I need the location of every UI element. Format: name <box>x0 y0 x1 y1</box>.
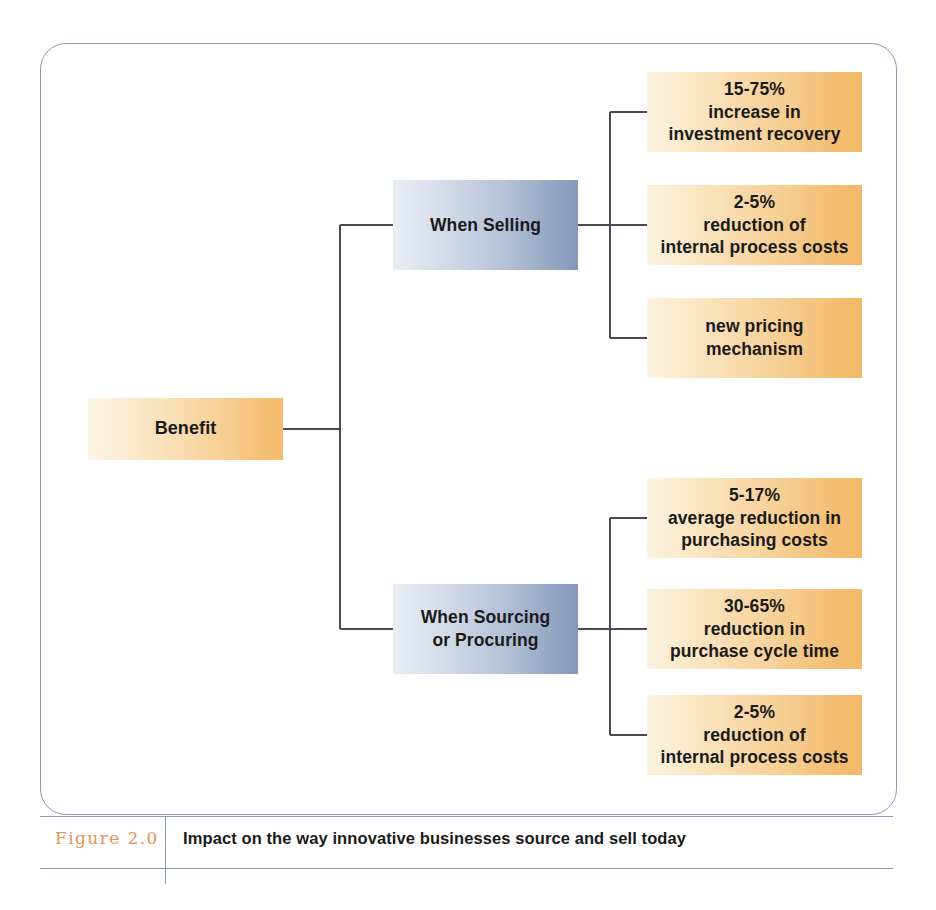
node-selling-leaf-1[interactable]: 15-75% increase in investment recovery <box>647 72 862 152</box>
node-sourcing-leaf-2-line3: purchase cycle time <box>655 640 854 663</box>
node-selling-leaf-2[interactable]: 2-5% reduction of internal process costs <box>647 185 862 265</box>
node-selling-leaf-1-line3: investment recovery <box>655 123 854 146</box>
figure-caption: Impact on the way innovative businesses … <box>183 829 686 848</box>
node-when-sourcing[interactable]: When Sourcing or Procuring <box>393 584 578 674</box>
caption-rule-bottom <box>40 868 893 869</box>
node-selling-leaf-2-line2: reduction of <box>655 214 854 237</box>
caption-divider <box>165 817 166 884</box>
node-selling-leaf-1-line2: increase in <box>655 101 854 124</box>
node-selling-leaf-3[interactable]: new pricing mechanism <box>647 298 862 378</box>
node-selling-leaf-1-line1: 15-75% <box>655 78 854 101</box>
figure-number: Figure 2.0 <box>55 828 159 848</box>
node-selling-leaf-2-line1: 2-5% <box>655 191 854 214</box>
node-when-selling[interactable]: When Selling <box>393 180 578 270</box>
node-sourcing-leaf-1-line1: 5-17% <box>655 484 854 507</box>
node-selling-leaf-3-line1: new pricing <box>655 315 854 338</box>
node-benefit-label: Benefit <box>88 417 283 440</box>
figure-canvas: Benefit When Selling 15-75% increase in … <box>0 0 936 910</box>
node-sourcing-leaf-2[interactable]: 30-65% reduction in purchase cycle time <box>647 589 862 669</box>
node-sourcing-leaf-1[interactable]: 5-17% average reduction in purchasing co… <box>647 478 862 558</box>
node-sourcing-leaf-2-line2: reduction in <box>655 618 854 641</box>
node-sourcing-leaf-1-line2: average reduction in <box>655 507 854 530</box>
node-sourcing-leaf-3-line1: 2-5% <box>655 701 854 724</box>
node-when-sourcing-label-line2: or Procuring <box>401 629 570 652</box>
caption-rule-top <box>40 816 893 817</box>
node-when-selling-label: When Selling <box>393 214 578 237</box>
node-sourcing-leaf-3-line3: internal process costs <box>655 746 854 769</box>
node-selling-leaf-2-line3: internal process costs <box>655 236 854 259</box>
node-when-sourcing-label-line1: When Sourcing <box>401 606 570 629</box>
node-sourcing-leaf-2-line1: 30-65% <box>655 595 854 618</box>
node-sourcing-leaf-3[interactable]: 2-5% reduction of internal process costs <box>647 695 862 775</box>
node-sourcing-leaf-3-line2: reduction of <box>655 724 854 747</box>
node-sourcing-leaf-1-line3: purchasing costs <box>655 529 854 552</box>
node-benefit[interactable]: Benefit <box>88 398 283 460</box>
node-selling-leaf-3-line2: mechanism <box>655 338 854 361</box>
